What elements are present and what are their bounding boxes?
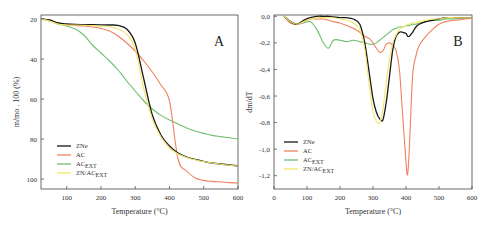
panel-b-series-lines: [284, 16, 472, 175]
x-tick-label: 500: [198, 194, 209, 202]
y-tick-label: -0,2: [259, 39, 271, 47]
panel-b-x-ticks: 0100200300400500600: [272, 186, 478, 202]
panel-a-series-lines: [41, 19, 238, 183]
legend-label: ACEXT: [76, 160, 97, 169]
x-tick-label: 100: [302, 194, 313, 202]
x-tick-label: 400: [164, 194, 175, 202]
series-line-acext: [41, 19, 238, 139]
legend-label: AC: [303, 147, 312, 154]
y-tick-label: 20: [30, 16, 38, 24]
panel-a-label: A: [214, 34, 225, 49]
series-line-zn-acext: [284, 16, 472, 123]
x-tick-label: 500: [434, 194, 445, 202]
y-tick-label: -0,6: [259, 93, 271, 101]
y-tick-label: 60: [30, 96, 38, 104]
x-tick-label: 200: [335, 194, 346, 202]
legend-label: ACEXT: [303, 156, 324, 165]
figure: 100200300400500600 10080604020 A Tempera…: [0, 0, 489, 225]
y-tick-label: -1,0: [259, 146, 271, 154]
legend-label: ZNe: [76, 142, 88, 149]
x-tick-label: 300: [368, 194, 379, 202]
x-tick-label: 400: [401, 194, 412, 202]
y-tick-label: 40: [30, 56, 38, 64]
panel-b-legend: ZNeACACEXTZN/ACEXT: [284, 138, 334, 174]
panel-a-x-ticks: 100200300400500600: [61, 186, 243, 202]
series-line-zne: [284, 16, 472, 121]
series-line-ac: [284, 16, 472, 175]
x-tick-label: 600: [233, 194, 244, 202]
series-line-ac: [41, 19, 238, 183]
x-tick-label: 100: [61, 194, 72, 202]
panel-b-x-axis-label: Temperature (°C): [345, 207, 402, 216]
x-tick-label: 600: [467, 194, 478, 202]
legend-label: AC: [76, 151, 85, 158]
panel-b: 0100200300400500600 0,0-0,2-0,4-0,6-0,8-…: [245, 13, 478, 216]
x-tick-label: 200: [96, 194, 107, 202]
x-tick-label: 300: [130, 194, 141, 202]
panel-a: 100200300400500600 10080604020 A Tempera…: [12, 15, 244, 216]
series-line-zne: [41, 19, 238, 166]
panel-a-x-axis-label: Temperature (°C): [111, 207, 168, 216]
y-tick-label: 80: [30, 136, 38, 144]
y-tick-label: 100: [27, 176, 38, 184]
series-line-zn-acext: [41, 19, 238, 166]
panel-b-label: B: [453, 34, 462, 49]
y-tick-label: -0,4: [259, 66, 271, 74]
x-tick-label: 0: [272, 194, 276, 202]
panel-b-y-axis-label: dm/dT: [245, 91, 254, 112]
y-tick-label: -1,2: [259, 172, 271, 180]
series-line-acext: [284, 16, 472, 48]
y-tick-label: 0,0: [261, 13, 270, 21]
legend-label: ZN/ACEXT: [76, 169, 107, 178]
panel-a-y-axis-label: m/mo . 100 (%): [12, 76, 21, 127]
y-tick-label: -0,8: [259, 119, 271, 127]
legend-label: ZNe: [303, 138, 315, 145]
legend-label: ZN/ACEXT: [303, 165, 334, 174]
panel-a-legend: ZNeACACEXTZN/ACEXT: [57, 142, 107, 178]
